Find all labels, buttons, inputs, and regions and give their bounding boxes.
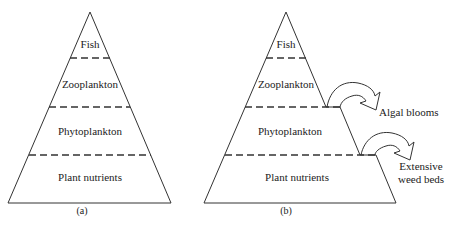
algal-bloom-arrow [327,82,380,110]
level-zooplankton-a: Zooplankton [62,78,118,90]
weed-beds-arrow [361,132,414,160]
weed-beds-line2: weed beds [398,173,444,186]
level-fish-a: Fish [81,38,100,50]
level-phytoplankton-a: Phytoplankton [58,125,122,137]
caption-a: (a) [76,205,87,216]
weed-beds-line1: Extensive [398,160,444,173]
caption-b: (b) [280,205,292,216]
level-fish-b: Fish [277,38,296,50]
level-zooplankton-b: Zooplankton [258,78,314,90]
level-phytoplankton-b: Phytoplankton [258,125,322,137]
level-plant-nutrients-b: Plant nutrients [265,171,329,183]
algal-blooms-label: Algal blooms [379,106,439,119]
level-plant-nutrients-a: Plant nutrients [58,171,122,183]
weed-beds-label: Extensive weed beds [398,160,444,186]
